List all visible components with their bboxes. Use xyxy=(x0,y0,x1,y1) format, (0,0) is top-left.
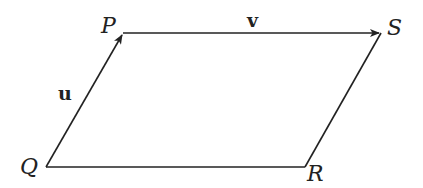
parallelogram-diagram: P S Q R u v xyxy=(0,0,423,188)
vector-label-u: u xyxy=(58,82,72,104)
vertex-label-s: S xyxy=(387,15,402,40)
vertex-label-r: R xyxy=(306,161,324,186)
diagram-canvas: P S Q R u v xyxy=(0,0,423,188)
vector-label-v: v xyxy=(246,9,259,31)
vertex-label-q: Q xyxy=(20,154,38,179)
vertex-label-p: P xyxy=(100,13,117,38)
edge-s-r xyxy=(305,33,381,167)
